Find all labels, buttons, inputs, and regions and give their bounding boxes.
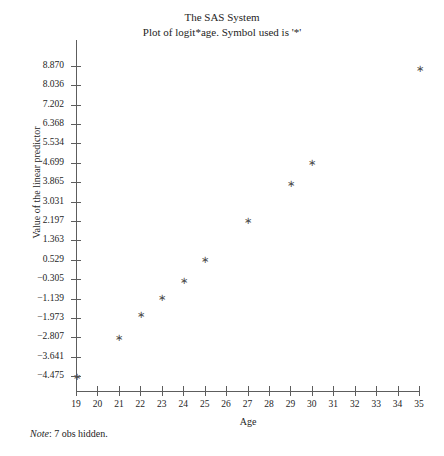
data-point-marker [201,256,208,263]
x-axis-tick [269,386,270,396]
data-point-marker [416,65,423,72]
y-axis-tick [71,221,81,222]
x-axis-tick [290,386,291,396]
data-point-marker [308,159,315,166]
y-axis-tick [71,357,81,358]
y-axis-tick [71,260,81,261]
x-axis-tick-label: 35 [406,399,432,409]
x-axis-tick [226,386,227,396]
x-axis-tick [119,386,120,396]
x-axis-tick [97,386,98,396]
plot-title: The SAS System [0,10,444,25]
data-point-marker [73,373,80,380]
y-axis-tick-label: −3.641 [12,352,64,362]
y-axis-tick [71,124,81,125]
x-axis-tick [248,386,249,396]
x-axis-tick [398,386,399,396]
y-axis-tick-label: −4.475 [12,371,64,381]
data-point-marker [287,180,294,187]
y-axis-tick [71,66,81,67]
y-axis-tick [71,202,81,203]
y-axis-tick [71,318,81,319]
y-axis-tick [71,163,81,164]
y-axis-tick [71,299,81,300]
x-axis-tick [333,386,334,396]
y-axis-tick-label: −1.973 [12,313,64,323]
y-axis-tick-label: −2.807 [12,332,64,342]
y-axis-tick [71,337,81,338]
y-axis-line [76,40,77,392]
x-axis-tick [419,386,420,396]
x-axis-tick [162,386,163,396]
footnote: Note: 7 obs hidden. [30,428,108,439]
data-point-marker [137,311,144,318]
x-axis-tick [355,386,356,396]
y-axis-tick [71,279,81,280]
y-axis-tick [71,143,81,144]
data-point-marker [115,334,122,341]
plot-titles: The SAS System Plot of logit*age. Symbol… [0,10,444,40]
x-axis-title: Age [76,416,420,427]
y-axis-tick [71,182,81,183]
plot-subtitle: Plot of logit*age. Symbol used is '*' [0,25,444,40]
y-axis-title: Value of the linear predictor [31,68,42,298]
x-axis-tick [183,386,184,396]
footnote-text: 7 obs hidden. [52,428,108,439]
sas-plot-figure: The SAS System Plot of logit*age. Symbol… [0,0,444,456]
data-point-marker [180,277,187,284]
y-axis-tick [71,105,81,106]
x-axis-tick [312,386,313,396]
x-axis-tick [376,386,377,396]
data-point-marker [158,294,165,301]
footnote-label: Note [30,428,49,439]
data-point-marker [244,217,251,224]
x-axis-tick [76,386,77,396]
x-axis-tick [205,386,206,396]
y-axis-tick [71,85,81,86]
x-axis-tick [140,386,141,396]
y-axis-tick [71,240,81,241]
